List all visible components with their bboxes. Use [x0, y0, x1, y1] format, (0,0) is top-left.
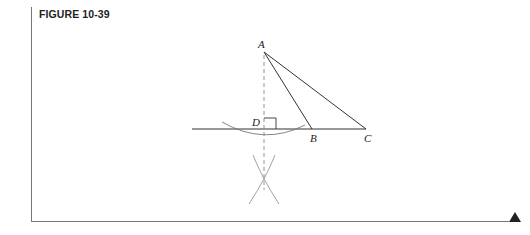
segment-ac [264, 52, 366, 129]
right-angle-marker [264, 118, 276, 129]
label-c: C [364, 132, 372, 144]
label-b: B [310, 132, 317, 144]
label-d: D [251, 116, 260, 128]
geometry-diagram: A D B C [0, 0, 530, 235]
construction-arc [222, 122, 305, 135]
label-a: A [257, 38, 265, 50]
segment-ab [264, 52, 312, 129]
construction-arc-left [253, 155, 279, 204]
construction-arc-right [249, 155, 275, 204]
